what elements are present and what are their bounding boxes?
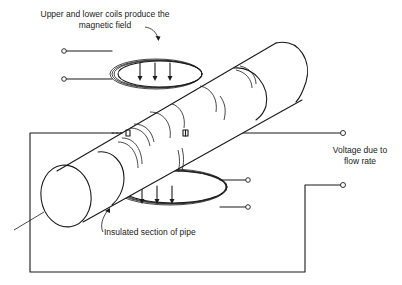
voltage-terminal-top xyxy=(341,131,346,136)
coils-label-line1: Upper and lower coils produce the xyxy=(30,9,180,20)
flowmeter-diagram: Upper and lower coils produce the magnet… xyxy=(0,0,402,285)
pipe xyxy=(14,42,308,230)
insulated-label: Insulated section of pipe xyxy=(104,227,196,238)
voltage-terminal-bottom xyxy=(341,183,346,188)
coils-label-line2: magnetic field xyxy=(30,20,180,31)
field-arrows-upper xyxy=(138,63,173,81)
voltage-label-line2: flow rate xyxy=(320,156,400,167)
voltage-label-line1: Voltage due to xyxy=(320,145,400,156)
upper-coil xyxy=(62,49,202,89)
